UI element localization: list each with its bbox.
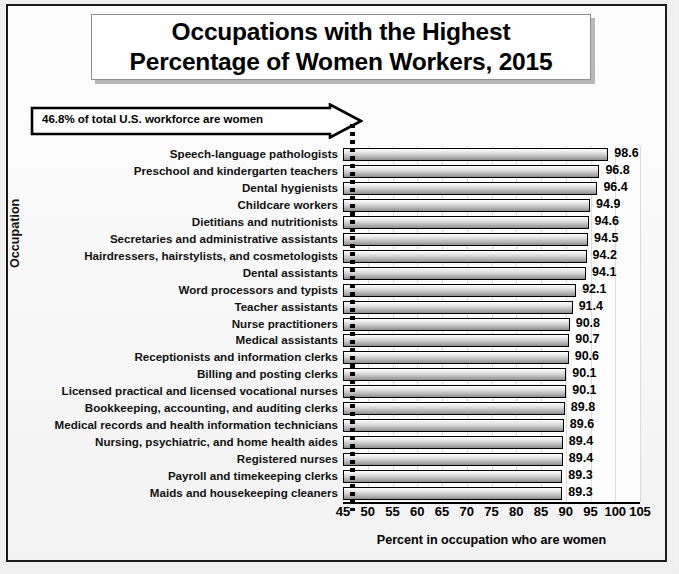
- bar-value-label: 90.1: [572, 383, 596, 397]
- bar: [343, 351, 569, 364]
- x-axis-title: Percent in occupation who are women: [343, 533, 640, 547]
- category-label: Medical assistants: [40, 333, 338, 346]
- x-tick-label: 90: [559, 504, 573, 519]
- category-label: Billing and posting clerks: [40, 367, 338, 380]
- category-label: Nurse practitioners: [40, 317, 338, 330]
- x-tick-label: 70: [460, 504, 474, 519]
- bar-value-label: 94.1: [592, 265, 616, 279]
- category-label: Bookkeeping, accounting, and auditing cl…: [40, 401, 338, 414]
- category-label: Receptionists and information clerks: [40, 350, 338, 363]
- bar: [343, 385, 566, 398]
- bar-value-label: 90.1: [572, 366, 596, 380]
- bar: [343, 165, 599, 178]
- bar-value-label: 90.8: [576, 316, 600, 330]
- bar-value-label: 89.3: [568, 468, 592, 482]
- x-tick-label: 105: [629, 504, 651, 519]
- category-label: Dental assistants: [40, 266, 338, 279]
- x-tick-label: 55: [385, 504, 399, 519]
- category-label: Secretaries and administrative assistant…: [40, 232, 338, 245]
- chart-screenshot: Occupations with the Highest Percentage …: [0, 0, 679, 574]
- bar: [343, 334, 569, 347]
- x-tick-label: 60: [410, 504, 424, 519]
- bar-value-label: 90.6: [575, 349, 599, 363]
- bar: [343, 182, 597, 195]
- bar: [343, 233, 588, 246]
- x-tick-label: 65: [435, 504, 449, 519]
- category-label: Preschool and kindergarten teachers: [40, 164, 338, 177]
- bar: [343, 216, 589, 229]
- category-label: Speech-language pathologists: [40, 147, 338, 160]
- annotation-text: 46.8% of total U.S. workforce are women: [42, 113, 263, 125]
- bar-value-label: 94.5: [594, 231, 618, 245]
- plot-area: 98.696.896.494.994.694.594.294.192.191.4…: [343, 146, 640, 502]
- bar: [343, 470, 562, 483]
- bar-value-label: 94.2: [593, 248, 617, 262]
- bar-value-label: 94.9: [596, 197, 620, 211]
- category-label: Registered nurses: [40, 452, 338, 465]
- bar-value-label: 89.3: [568, 485, 592, 499]
- bar-value-label: 94.6: [595, 214, 619, 228]
- category-label: Dietitians and nutritionists: [40, 215, 338, 228]
- category-label: Maids and housekeeping cleaners: [40, 486, 338, 499]
- bar: [343, 368, 566, 381]
- reference-line: [350, 124, 355, 511]
- bar: [343, 318, 570, 331]
- bar: [343, 267, 586, 280]
- x-tick-label: 45: [336, 504, 350, 519]
- x-axis-tick-labels: 4550556065707580859095100105: [343, 504, 640, 524]
- bar: [343, 148, 608, 161]
- workforce-annotation-callout: 46.8% of total U.S. workforce are women: [30, 103, 363, 139]
- bar-value-label: 89.6: [570, 417, 594, 431]
- bar: [343, 250, 587, 263]
- bar-value-label: 96.8: [605, 163, 629, 177]
- category-label: Payroll and timekeeping clerks: [40, 469, 338, 482]
- x-tick-label: 100: [604, 504, 626, 519]
- bar: [343, 199, 590, 212]
- chart-title-box: Occupations with the Highest Percentage …: [91, 14, 591, 80]
- bar: [343, 436, 563, 449]
- y-axis-title: Occupation: [8, 199, 22, 268]
- x-tick-label: 95: [583, 504, 597, 519]
- bar-value-label: 89.8: [571, 400, 595, 414]
- category-label: Hairdressers, hairstylists, and cosmetol…: [40, 249, 338, 262]
- category-label: Dental hygienists: [40, 181, 338, 194]
- chart-title-line-2: Percentage of Women Workers, 2015: [130, 47, 553, 77]
- y-axis-category-labels: Speech-language pathologistsPreschool an…: [40, 146, 338, 502]
- x-tick-label: 75: [484, 504, 498, 519]
- bar-value-label: 89.4: [569, 434, 593, 448]
- category-label: Childcare workers: [40, 198, 338, 211]
- category-label: Teacher assistants: [40, 300, 338, 313]
- x-tick-label: 80: [509, 504, 523, 519]
- x-tick-label: 85: [534, 504, 548, 519]
- bar: [343, 301, 573, 314]
- bar: [343, 402, 565, 415]
- bar-value-label: 89.4: [569, 451, 593, 465]
- category-label: Nursing, psychiatric, and home health ai…: [40, 435, 338, 448]
- bar: [343, 284, 576, 297]
- x-tick-label: 50: [361, 504, 375, 519]
- bar: [343, 419, 564, 432]
- bar-value-label: 92.1: [582, 282, 606, 296]
- bar-value-label: 91.4: [579, 299, 603, 313]
- bar: [343, 453, 563, 466]
- category-label: Medical records and health information t…: [40, 418, 338, 431]
- gridline: [640, 146, 641, 502]
- category-label: Licensed practical and licensed vocation…: [40, 384, 338, 397]
- category-label: Word processors and typists: [40, 283, 338, 296]
- bar-value-label: 90.7: [575, 332, 599, 346]
- bar: [343, 487, 562, 500]
- bar-value-label: 96.4: [603, 180, 627, 194]
- chart-title-line-1: Occupations with the Highest: [172, 17, 511, 47]
- bar-value-label: 98.6: [614, 146, 638, 160]
